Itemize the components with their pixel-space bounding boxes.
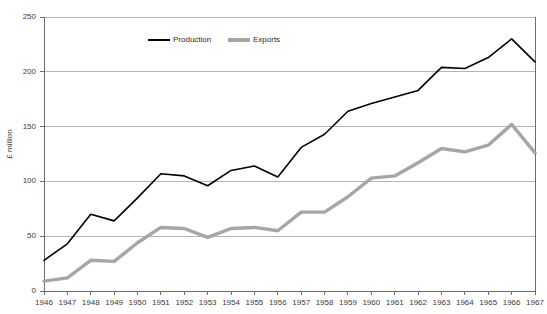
- legend-label-exports: Exports: [253, 36, 280, 44]
- x-tick-label: 1967: [520, 299, 547, 307]
- plot-frame: [44, 17, 535, 291]
- legend-swatch-production: [148, 39, 170, 42]
- y-tick-label: 200: [10, 68, 36, 76]
- legend-swatch-exports: [228, 38, 250, 42]
- chart-plot-area: [0, 0, 547, 314]
- legend-item-exports: Exports: [228, 36, 280, 44]
- y-tick-label: 100: [10, 177, 36, 185]
- legend-item-production: Production: [148, 36, 211, 44]
- y-axis-title: £ million: [6, 114, 14, 174]
- y-tick-label: 0: [10, 287, 36, 295]
- gridlines-group: [40, 17, 535, 291]
- series-line-exports: [44, 124, 535, 281]
- y-tick-label: 250: [10, 13, 36, 21]
- line-chart: 050100150200250 194619471948194919501951…: [0, 0, 547, 314]
- x-tick-marks-group: [44, 291, 535, 295]
- y-tick-label: 50: [10, 232, 36, 240]
- series-lines-group: [44, 39, 535, 281]
- legend-label-production: Production: [173, 36, 211, 44]
